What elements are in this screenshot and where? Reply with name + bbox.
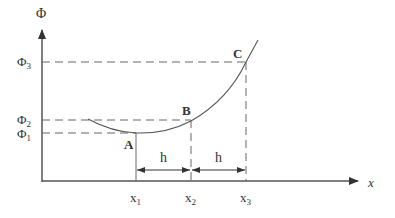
x3-label: x3 [240, 190, 252, 207]
point-b-label: B [182, 103, 191, 118]
x2-label: x2 [185, 190, 196, 207]
interval-2-label: h [215, 150, 222, 165]
phi3-label: Φ3 [17, 54, 32, 71]
point-a-label: A [124, 137, 134, 152]
x-axis-label: x [367, 175, 374, 190]
y-axis-label: Φ [36, 6, 46, 21]
phi-diagram: Φ x Φ3 Φ2 Φ1 x1 x2 x3 A B C h h [0, 0, 395, 218]
interval-1-label: h [160, 150, 167, 165]
x1-label: x1 [130, 190, 141, 207]
point-c-label: C [233, 46, 242, 61]
